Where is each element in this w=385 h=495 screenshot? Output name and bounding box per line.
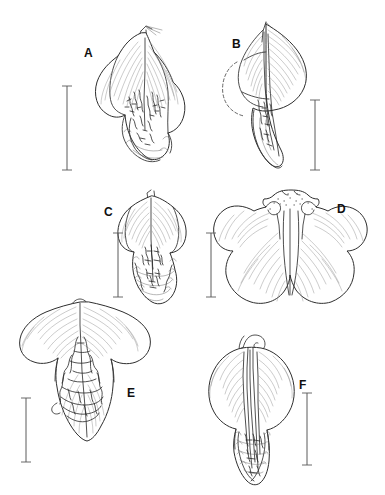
panel-d-drawing [200, 185, 385, 320]
scale-bar-c [111, 229, 125, 301]
labellum-outline-c [118, 190, 186, 304]
panel-label-a: A [84, 47, 93, 59]
panel-label-d: D [337, 203, 346, 215]
scale-bar-a [60, 82, 74, 174]
panel-label-c: C [104, 206, 113, 218]
panel-b: B [210, 0, 385, 195]
labellum-outline-e [20, 299, 151, 441]
panel-f: F [195, 330, 385, 490]
scale-bar-d [204, 229, 218, 301]
scale-bar-f [300, 389, 314, 469]
panel-d: D [200, 185, 385, 320]
panel-label-e: E [127, 387, 135, 399]
illustration-plate: A [0, 0, 385, 495]
labellum-outline-f [209, 335, 295, 485]
panel-a-drawing [0, 0, 210, 195]
panel-f-drawing [195, 330, 385, 490]
scale-bar-e [19, 394, 33, 466]
panel-label-b: B [232, 38, 241, 50]
panel-e: E [0, 295, 165, 470]
panel-a: A [0, 0, 210, 195]
scale-bar-b [308, 96, 322, 174]
panel-b-drawing [210, 0, 385, 195]
